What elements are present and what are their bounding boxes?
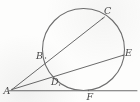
- vertex-label-e: E: [125, 48, 132, 58]
- geometry-canvas: [0, 0, 140, 102]
- vertex-label-d: D: [51, 77, 59, 87]
- point-marker-c: [102, 18, 103, 19]
- secant-a-d-e: [12, 55, 124, 90]
- point-marker-b: [45, 57, 46, 58]
- vertex-label-f: F: [87, 92, 94, 102]
- vertex-label-b: B: [36, 51, 43, 61]
- geometry-figure: A B C D E F: [0, 0, 140, 102]
- vertex-label-a: A: [4, 86, 11, 96]
- vertex-label-c: C: [104, 6, 111, 16]
- point-marker-e: [122, 55, 123, 56]
- point-marker-a: [11, 89, 12, 90]
- point-marker-d: [59, 84, 60, 85]
